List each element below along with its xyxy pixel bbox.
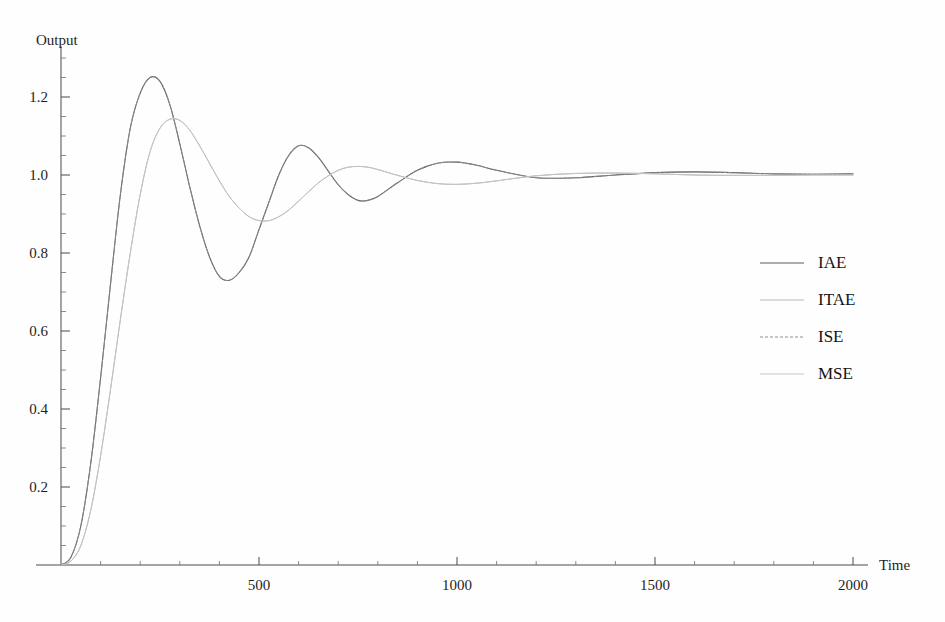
- x-tick-label: 1500: [640, 577, 670, 593]
- legend-label-mse: MSE: [818, 364, 853, 383]
- chart-figure: 0.20.40.60.81.01.2 500100015002000 Outpu…: [0, 0, 945, 622]
- x-tick-label: 2000: [838, 577, 868, 593]
- y-tick-label: 0.6: [29, 323, 48, 339]
- x-tick-label: 500: [248, 577, 271, 593]
- legend-label-ise: ISE: [818, 327, 844, 346]
- x-axis-tick-labels: 500100015002000: [248, 577, 868, 593]
- series-line-ise: [61, 77, 853, 565]
- line-chart: 0.20.40.60.81.01.2 500100015002000 Outpu…: [0, 0, 945, 622]
- y-tick-label: 0.8: [29, 245, 48, 261]
- data-series-group: [61, 77, 853, 565]
- series-line-itae: [61, 119, 853, 565]
- y-tick-label: 0.4: [29, 401, 48, 417]
- y-axis-tick-labels: 0.20.40.60.81.01.2: [29, 89, 48, 495]
- x-tick-label: 1000: [442, 577, 472, 593]
- y-tick-label: 0.2: [29, 479, 48, 495]
- legend-label-iae: IAE: [818, 253, 846, 272]
- y-axis-title: Output: [36, 32, 79, 48]
- chart-legend: IAEITAEISEMSE: [760, 253, 855, 383]
- y-tick-label: 1.0: [29, 167, 48, 183]
- y-axis-minor-ticks: [61, 58, 66, 546]
- y-tick-label: 1.2: [29, 89, 48, 105]
- axes: [36, 46, 868, 565]
- x-axis-major-ticks: [259, 557, 853, 565]
- series-line-iae: [61, 77, 853, 565]
- x-axis-title: Time: [879, 557, 910, 573]
- series-line-mse: [61, 119, 853, 565]
- legend-label-itae: ITAE: [818, 290, 855, 309]
